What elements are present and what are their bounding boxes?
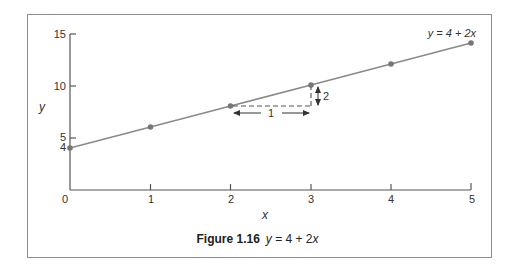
caption-eq-x: x (313, 232, 319, 246)
x-tick-label-5: 5 (469, 193, 475, 205)
data-point (148, 124, 154, 130)
tick-labels: 15 10 5 4 0 1 2 3 4 5 (54, 28, 475, 205)
data-point (308, 82, 314, 88)
line-equation-label: y = 4 + 2x (427, 27, 477, 39)
y-tick-label-15: 15 (54, 28, 66, 40)
figure-caption: Figure 1.16y = 4 + 2x (0, 232, 515, 246)
y-axis-label: y (38, 100, 46, 114)
x-tick-label-1: 1 (148, 193, 154, 205)
x-axis-label: x (261, 208, 269, 222)
slope-triangle (233, 87, 311, 106)
figure-number: Figure 1.16 (196, 232, 259, 246)
data-point (228, 103, 234, 109)
data-point (468, 40, 474, 46)
data-point (388, 61, 394, 67)
rise-label: 2 (323, 90, 329, 102)
y-tick-label-10: 10 (54, 80, 66, 92)
data-point (67, 145, 73, 151)
x-tick-label-2: 2 (228, 193, 234, 205)
caption-eq-mid: = 4 + 2 (272, 232, 313, 246)
run-label: 1 (268, 107, 274, 119)
x-tick-label-3: 3 (308, 193, 314, 205)
caption-equation: y = 4 + 2x (266, 232, 319, 246)
x-tick-label-4: 4 (388, 193, 394, 205)
y-tick-label-4: 4 (60, 141, 66, 153)
x-tick-label-0: 0 (62, 193, 68, 205)
data-line (70, 43, 471, 148)
